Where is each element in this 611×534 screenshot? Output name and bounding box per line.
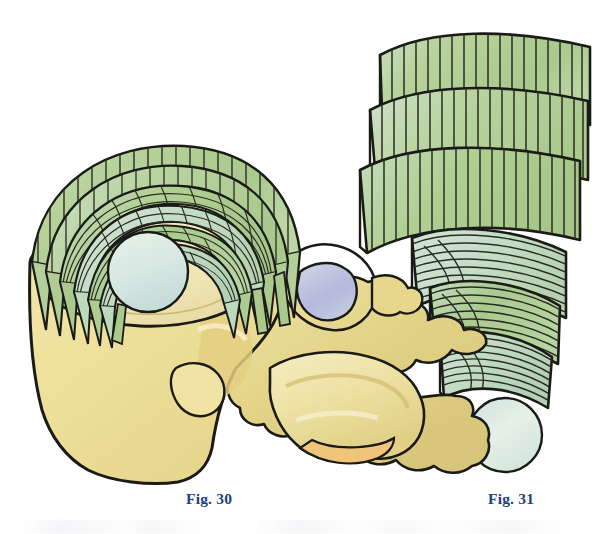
fig30-vertebral-foramen bbox=[297, 263, 357, 320]
anatomy-figure-plate: Fig. 30 Fig. 31 bbox=[0, 0, 611, 534]
plate-illustration bbox=[0, 0, 611, 534]
caption-fig-30: Fig. 30 bbox=[186, 490, 232, 508]
caption-fig-31: Fig. 31 bbox=[488, 490, 534, 508]
fig30-nucleus-pulposus bbox=[108, 232, 188, 312]
